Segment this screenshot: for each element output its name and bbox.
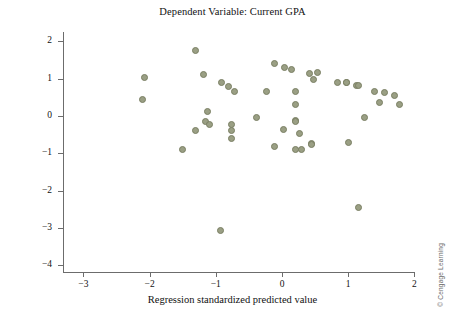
data-point (271, 60, 278, 67)
data-point (263, 88, 270, 95)
data-point (343, 79, 350, 86)
data-point (292, 101, 299, 108)
x-tick-mark (83, 272, 84, 277)
chart-title: Dependent Variable: Current GPA (0, 6, 465, 17)
data-point (204, 108, 211, 115)
data-point (280, 126, 287, 133)
data-point (298, 146, 305, 153)
data-point (334, 79, 341, 86)
x-axis-title: Regression standardized predicted value (0, 294, 465, 305)
data-point (253, 114, 260, 121)
x-tick-label: 0 (267, 280, 297, 290)
data-point (228, 135, 235, 142)
data-point (200, 71, 207, 78)
x-tick-label: 2 (399, 280, 429, 290)
data-point (231, 88, 238, 95)
x-tick-mark (282, 272, 283, 277)
y-tick-label: −3 (22, 223, 52, 233)
y-tick-label: 0 (22, 111, 52, 121)
data-point (292, 118, 299, 125)
x-tick-mark (150, 272, 151, 277)
data-point (281, 64, 288, 71)
y-tick-label: −2 (22, 186, 52, 196)
y-tick-label: −1 (22, 148, 52, 158)
data-point (376, 99, 383, 106)
data-point (292, 88, 299, 95)
data-point (192, 127, 199, 134)
data-point (206, 121, 213, 128)
data-point (192, 47, 199, 54)
data-point (141, 74, 148, 81)
y-tick-label: −4 (22, 260, 52, 270)
data-point (271, 143, 278, 150)
plot-area (63, 32, 414, 272)
x-tick-label: −1 (201, 280, 231, 290)
x-tick-mark (348, 272, 349, 277)
data-point (288, 66, 295, 73)
data-point (381, 89, 388, 96)
data-point (310, 76, 317, 83)
x-tick-mark (216, 272, 217, 277)
x-tick-mark (414, 272, 415, 277)
copyright-credit: © Cengage Learning (437, 243, 444, 307)
data-point (179, 146, 186, 153)
data-point (391, 92, 398, 99)
y-tick-label: 2 (22, 36, 52, 46)
data-point (396, 101, 403, 108)
data-point (228, 127, 235, 134)
scatter-plot-figure: Dependent Variable: Current GPA 210−1−2−… (0, 0, 465, 331)
data-point (314, 69, 321, 76)
data-point (308, 141, 315, 148)
x-tick-label: −3 (68, 280, 98, 290)
data-point (355, 204, 362, 211)
data-point (217, 227, 224, 234)
x-axis-line (63, 272, 414, 273)
data-point (361, 114, 368, 121)
data-point (355, 82, 362, 89)
data-point (371, 88, 378, 95)
x-tick-label: 1 (333, 280, 363, 290)
data-point (139, 96, 146, 103)
y-tick-label: 1 (22, 74, 52, 84)
x-tick-label: −2 (135, 280, 165, 290)
data-point (296, 130, 303, 137)
data-point (345, 139, 352, 146)
data-point (218, 79, 225, 86)
